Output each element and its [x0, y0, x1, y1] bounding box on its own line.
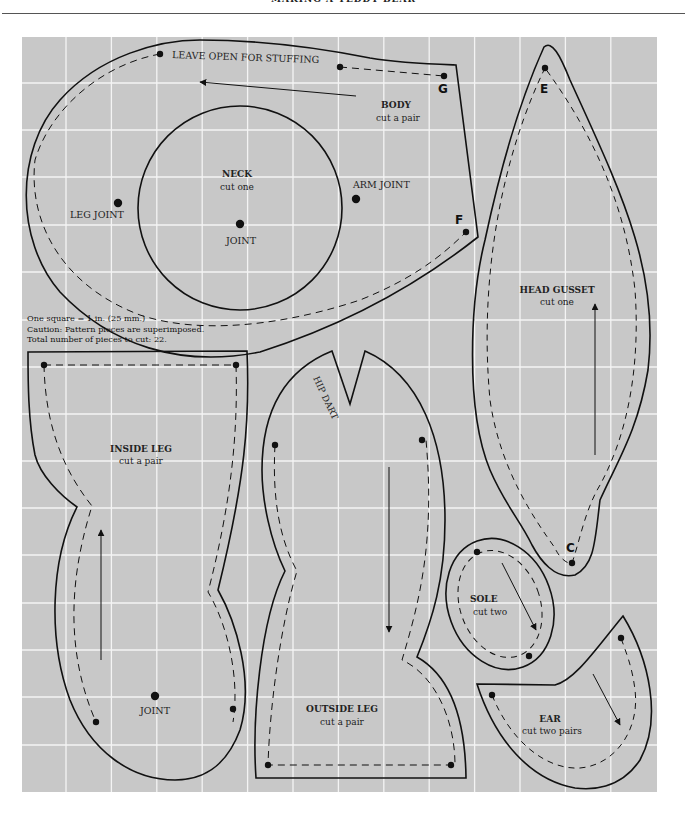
scale-note: One square = 1 in. (25 mm.) [27, 313, 204, 324]
leg-joint-label: LEG JOINT [70, 209, 125, 220]
total-pieces-note: Total number of pieces to cut: 22. [27, 334, 204, 345]
head-gusset-point-e: E [540, 82, 548, 96]
caution-note: Caution: Pattern pieces are superimposed… [27, 324, 204, 335]
body-cut-count: cut a pair [376, 113, 421, 123]
sole-title: SOLE [470, 594, 498, 604]
body-title: BODY [381, 100, 411, 110]
sole-cut-count: cut two [473, 607, 507, 617]
pattern-sheet: LEAVE OPEN FOR STUFFING G BODY cut a pai… [0, 0, 687, 825]
neck-cut-count: cut one [220, 182, 254, 192]
inside-leg-cut-count: cut a pair [119, 456, 164, 466]
neck-joint-label: JOINT [225, 235, 257, 246]
pattern-notes: One square = 1 in. (25 mm.) Caution: Pat… [27, 313, 204, 345]
body-point-g: G [438, 82, 448, 96]
body-point-f: F [455, 213, 463, 227]
inside-leg-joint-label: JOINT [139, 705, 171, 716]
head-gusset-point-c: C [566, 541, 575, 555]
outside-leg-cut-count: cut a pair [320, 717, 365, 727]
ear-cut-count: cut two pairs [522, 726, 582, 736]
head-gusset-title: HEAD GUSSET [519, 285, 594, 295]
ear-title: EAR [539, 714, 561, 724]
inside-leg-title: INSIDE LEG [110, 444, 172, 454]
head-gusset-cut-count: cut one [540, 297, 574, 307]
neck-joint-marker [236, 220, 244, 228]
outside-leg-title: OUTSIDE LEG [306, 704, 378, 714]
neck-title: NECK [222, 169, 253, 179]
arm-joint-label: ARM JOINT [352, 179, 410, 190]
